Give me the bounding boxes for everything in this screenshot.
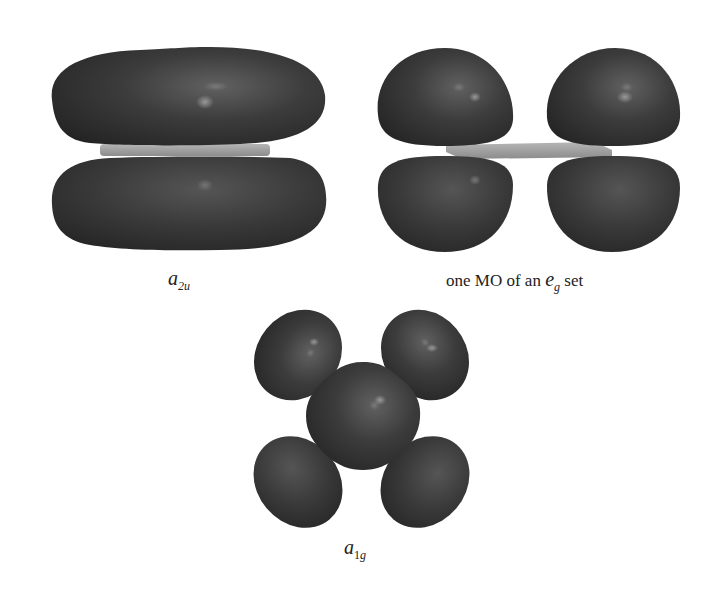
- label-suffix: set: [560, 271, 583, 290]
- a1g-orbital: [235, 292, 488, 546]
- a2u-top-lobe: [52, 47, 326, 145]
- eg-orbital: [378, 48, 681, 252]
- a2u-bottom-lobe: [52, 157, 326, 251]
- square-plane-slab: [100, 144, 270, 156]
- label-subscript: 2u: [178, 279, 190, 293]
- label-main: a: [168, 267, 178, 289]
- a1g-label: a1g: [344, 536, 366, 559]
- eg-top-right-lobe: [547, 48, 680, 146]
- eg-label: one MO of an eg set: [446, 268, 583, 291]
- a2u-label: a2u: [168, 267, 190, 290]
- a2u-orbital: [52, 47, 327, 250]
- label-prefix: one MO of an: [446, 271, 545, 290]
- label-subscript: g: [554, 280, 560, 294]
- eg-bottom-left-lobe: [378, 156, 513, 252]
- orbital-figure: [0, 0, 717, 594]
- eg-bottom-right-lobe: [547, 156, 680, 252]
- label-subscript: g: [360, 548, 366, 562]
- eg-top-left-lobe: [378, 48, 514, 146]
- label-main: a: [344, 536, 354, 558]
- label-main: e: [545, 268, 554, 290]
